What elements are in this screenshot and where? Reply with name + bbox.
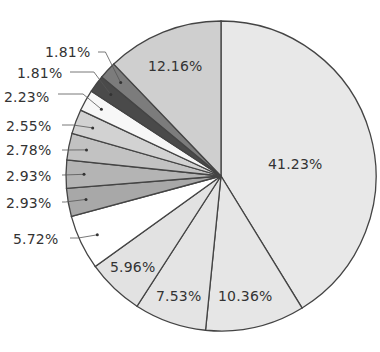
label-2-93-b: 2.93% bbox=[6, 195, 51, 211]
label-1-81-b: 1.81% bbox=[45, 44, 90, 60]
leader-dot bbox=[119, 81, 122, 84]
leader-dot bbox=[85, 198, 88, 201]
label-12-16: 12.16% bbox=[148, 58, 203, 74]
leader-dot bbox=[109, 93, 112, 96]
leader-dot bbox=[85, 148, 88, 151]
leader-dot bbox=[91, 126, 94, 129]
label-5-72: 5.72% bbox=[13, 231, 58, 247]
label-2-78: 2.78% bbox=[6, 142, 51, 158]
label-1-81-a: 1.81% bbox=[17, 65, 62, 81]
leader-dot bbox=[100, 108, 103, 111]
label-10-36: 10.36% bbox=[218, 288, 273, 304]
label-5-96: 5.96% bbox=[110, 259, 155, 275]
leader-dot bbox=[83, 173, 86, 176]
leader-dot bbox=[96, 233, 99, 236]
label-2-55: 2.55% bbox=[6, 118, 51, 134]
label-2-23: 2.23% bbox=[4, 89, 49, 105]
label-2-93-a: 2.93% bbox=[6, 168, 51, 184]
label-7-53: 7.53% bbox=[156, 288, 201, 304]
label-41-23: 41.23% bbox=[268, 156, 323, 172]
